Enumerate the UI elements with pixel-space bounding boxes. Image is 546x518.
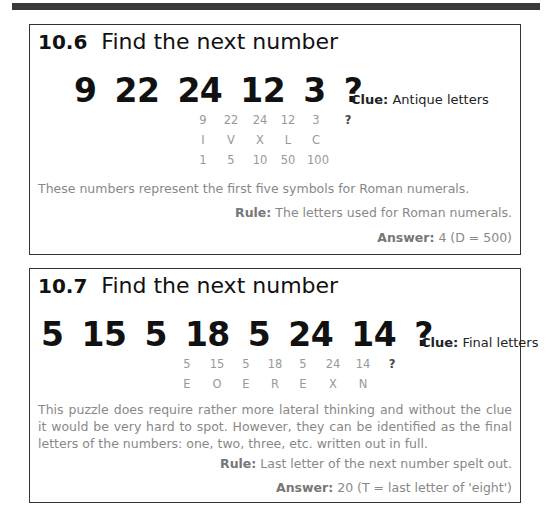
sequence-item: 24 — [288, 315, 333, 354]
sequence-item: 5 — [144, 315, 166, 354]
sequence-item: 5 — [248, 315, 270, 354]
sequence-item: 24 — [177, 71, 222, 110]
sequence-item: 5 — [41, 315, 63, 354]
puzzle-heading: Find the next number — [101, 29, 338, 54]
working-cell: V — [218, 133, 244, 147]
working-grid: 9 22 24 12 3 ? I V X L C 1 5 10 50 100 — [30, 113, 520, 173]
working-cell: N — [350, 377, 376, 391]
puzzle-box-10-6: 10.6Find the next number 92224123? Clue:… — [29, 24, 521, 255]
explanation: This puzzle does require rather more lat… — [38, 401, 512, 452]
working-grid: 5 15 5 18 5 24 14 ? E O E R E X N — [30, 357, 520, 397]
working-cell: X — [247, 133, 273, 147]
answer-text: 4 (D = 500) — [438, 230, 512, 245]
sequence-item: 22 — [114, 71, 159, 110]
working-cell: E — [290, 377, 316, 391]
working-cell: O — [204, 377, 230, 391]
rule: Rule: The letters used for Roman numeral… — [235, 205, 512, 220]
sequence-item: 12 — [240, 71, 285, 110]
sequence-item: 9 — [74, 71, 96, 110]
answer: Answer: 4 (D = 500) — [377, 230, 512, 245]
rule-label: Rule: — [235, 205, 271, 220]
working-cell: E — [233, 377, 259, 391]
explanation: These numbers represent the first five s… — [38, 180, 514, 197]
answer-label: Answer: — [276, 480, 333, 495]
sequence-item: 3 — [303, 71, 325, 110]
clue-text: Antique letters — [392, 92, 488, 107]
rule-text: Last letter of the next number spelt out… — [260, 456, 512, 471]
clue: Clue: Final letters — [421, 335, 538, 350]
answer: Answer: 20 (T = last letter of 'eight') — [276, 480, 512, 495]
working-cell: 12 — [275, 113, 301, 127]
answer-text: 20 (T = last letter of 'eight') — [337, 480, 512, 495]
working-cell-question: ? — [379, 357, 405, 371]
working-cell: 5 — [290, 357, 316, 371]
working-cell-question: ? — [335, 113, 361, 127]
working-cell: E — [174, 377, 200, 391]
working-cell: 1 — [190, 153, 216, 167]
number-sequence: 51551852414? — [41, 315, 451, 354]
answer-label: Answer: — [377, 230, 434, 245]
working-cell: 5 — [174, 357, 200, 371]
working-cell: 14 — [350, 357, 376, 371]
working-cell: C — [303, 133, 329, 147]
working-cell: 24 — [247, 113, 273, 127]
rule-text: The letters used for Roman numerals. — [275, 205, 512, 220]
working-cell: 9 — [190, 113, 216, 127]
working-cell: 22 — [218, 113, 244, 127]
number-sequence: 92224123? — [74, 71, 380, 110]
clue-text: Final letters — [462, 335, 538, 350]
clue: Clue: Antique letters — [351, 92, 489, 107]
working-cell: X — [320, 377, 346, 391]
working-cell: 15 — [204, 357, 230, 371]
working-cell: 18 — [262, 357, 288, 371]
sequence-item: 15 — [81, 315, 126, 354]
working-cell: R — [262, 377, 288, 391]
puzzle-box-10-7: 10.7Find the next number 51551852414? Cl… — [29, 268, 521, 503]
working-cell: 100 — [305, 153, 331, 167]
working-cell: 50 — [275, 153, 301, 167]
rule: Rule: Last letter of the next number spe… — [220, 456, 512, 471]
sequence-item: 14 — [351, 315, 396, 354]
working-cell: I — [190, 133, 216, 147]
puzzle-number: 10.7 — [38, 274, 87, 298]
rule-label: Rule: — [220, 456, 256, 471]
puzzle-number: 10.6 — [38, 30, 87, 54]
working-cell: 5 — [218, 153, 244, 167]
clue-label: Clue: — [351, 92, 388, 107]
working-cell: 3 — [303, 113, 329, 127]
working-cell: 5 — [233, 357, 259, 371]
puzzle-title: 10.6Find the next number — [38, 29, 338, 54]
sequence-item: 18 — [185, 315, 230, 354]
working-cell: 10 — [247, 153, 273, 167]
working-cell: 24 — [320, 357, 346, 371]
clue-label: Clue: — [421, 335, 458, 350]
working-cell: L — [275, 133, 301, 147]
puzzle-title: 10.7Find the next number — [38, 273, 338, 298]
puzzle-heading: Find the next number — [101, 273, 338, 298]
page-header-rule — [12, 3, 540, 10]
